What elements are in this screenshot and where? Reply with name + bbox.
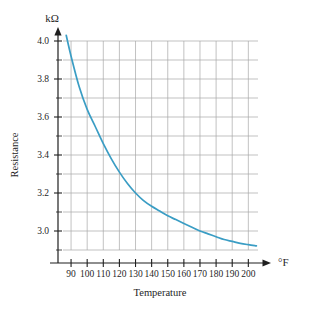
x-tick-label: 90 bbox=[66, 269, 76, 279]
x-axis-unit-label: °F bbox=[278, 256, 289, 268]
resistance-vs-temperature-figure: 3.03.23.43.63.84.0 901001101201301401501… bbox=[0, 0, 316, 318]
y-tick-label: 3.0 bbox=[37, 226, 49, 236]
chart-canvas: 3.03.23.43.63.84.0 901001101201301401501… bbox=[0, 0, 316, 318]
x-tick-label: 140 bbox=[145, 269, 160, 279]
y-axis-tick-labels: 3.03.23.43.63.84.0 bbox=[37, 36, 49, 236]
y-axis-title: Resistance bbox=[9, 132, 20, 177]
y-axis-arrowhead bbox=[54, 27, 61, 36]
x-tick-label: 120 bbox=[112, 269, 127, 279]
y-tick-label: 3.2 bbox=[37, 188, 49, 198]
y-tick-label: 3.4 bbox=[37, 150, 49, 160]
resistance-curve bbox=[66, 35, 256, 246]
x-tick-label: 170 bbox=[193, 269, 208, 279]
x-axis-tick-labels: 90100110120130140150160170180190200 bbox=[66, 269, 255, 279]
x-tick-label: 180 bbox=[209, 269, 224, 279]
x-tick-label: 200 bbox=[241, 269, 256, 279]
x-tick-label: 190 bbox=[225, 269, 240, 279]
y-tick-label: 4.0 bbox=[37, 36, 49, 46]
x-tick-label: 150 bbox=[161, 269, 176, 279]
y-tick-label: 3.6 bbox=[37, 112, 49, 122]
x-axis-title: Temperature bbox=[134, 287, 187, 298]
x-tick-label: 130 bbox=[128, 269, 143, 279]
x-tick-label: 160 bbox=[177, 269, 192, 279]
x-axis-arrowhead bbox=[263, 259, 272, 266]
y-axis-unit-label: kΩ bbox=[45, 12, 59, 24]
x-tick-label: 110 bbox=[96, 269, 110, 279]
grid-lines-vertical bbox=[71, 41, 248, 250]
x-tick-label: 100 bbox=[80, 269, 95, 279]
y-tick-label: 3.8 bbox=[37, 74, 49, 84]
